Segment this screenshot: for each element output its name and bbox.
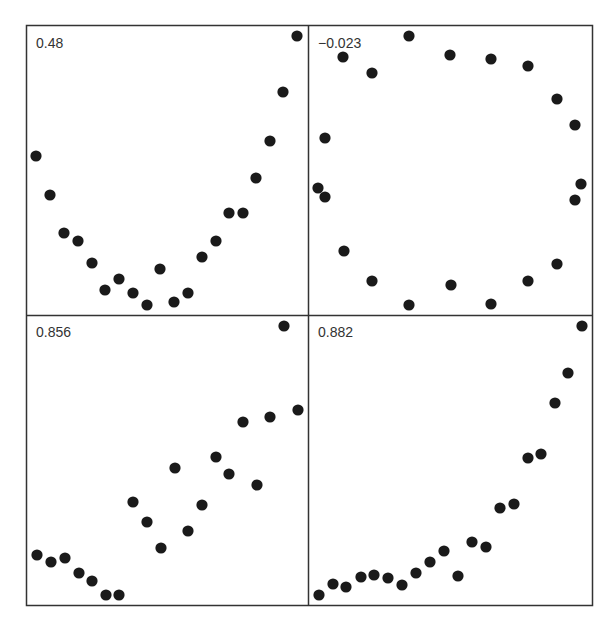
- data-point: [319, 191, 330, 202]
- data-point: [251, 479, 262, 490]
- data-point: [355, 571, 366, 582]
- data-point: [319, 132, 330, 143]
- data-point: [438, 545, 449, 556]
- data-point: [210, 235, 221, 246]
- panel-label-bottom-left: 0.856: [36, 324, 71, 340]
- data-point: [382, 572, 393, 583]
- data-point: [522, 60, 533, 71]
- data-point: [250, 172, 261, 183]
- data-point: [223, 207, 234, 218]
- panel-label-top-left: 0.48: [36, 35, 63, 51]
- data-point: [127, 496, 138, 507]
- data-point: [452, 570, 463, 581]
- data-point: [141, 516, 152, 527]
- data-point: [72, 235, 83, 246]
- data-point: [562, 367, 573, 378]
- data-point: [45, 556, 56, 567]
- panel-label-top-right: −0.023: [318, 35, 361, 51]
- data-point: [551, 258, 562, 269]
- data-point: [569, 194, 580, 205]
- data-point: [127, 287, 138, 298]
- data-point: [535, 448, 546, 459]
- data-point: [277, 86, 288, 97]
- data-point: [223, 468, 234, 479]
- data-point: [410, 567, 421, 578]
- data-point: [182, 525, 193, 536]
- data-point: [340, 581, 351, 592]
- data-point: [551, 93, 562, 104]
- data-point: [169, 462, 180, 473]
- data-point: [312, 182, 323, 193]
- scatter-plot-matrix: 0.48 −0.023 0.856 0.882: [0, 0, 616, 627]
- data-point: [141, 299, 152, 310]
- data-point: [99, 284, 110, 295]
- data-point: [576, 320, 587, 331]
- data-point: [403, 30, 414, 41]
- data-point: [366, 275, 377, 286]
- data-point: [210, 451, 221, 462]
- panel-label-bottom-right: 0.882: [318, 324, 353, 340]
- data-point: [237, 416, 248, 427]
- data-point: [168, 296, 179, 307]
- data-point: [73, 567, 84, 578]
- data-point: [549, 397, 560, 408]
- data-point: [100, 589, 111, 600]
- data-point: [237, 207, 248, 218]
- data-point: [44, 189, 55, 200]
- data-point: [445, 279, 456, 290]
- data-point: [396, 579, 407, 590]
- data-point: [155, 542, 166, 553]
- data-point: [154, 263, 165, 274]
- data-point: [494, 502, 505, 513]
- data-point: [291, 30, 302, 41]
- data-point: [424, 556, 435, 567]
- data-point: [366, 67, 377, 78]
- data-point: [59, 552, 70, 563]
- data-point: [196, 499, 207, 510]
- data-point: [508, 498, 519, 509]
- data-point: [292, 404, 303, 415]
- data-point: [485, 53, 496, 64]
- data-point: [480, 541, 491, 552]
- data-point: [264, 135, 275, 146]
- data-point: [313, 589, 324, 600]
- data-point: [196, 251, 207, 262]
- data-point: [86, 575, 97, 586]
- data-point: [58, 227, 69, 238]
- data-point: [522, 452, 533, 463]
- data-point: [485, 298, 496, 309]
- data-point: [327, 578, 338, 589]
- data-point: [113, 273, 124, 284]
- data-point: [338, 245, 349, 256]
- data-point: [444, 49, 455, 60]
- data-point: [278, 320, 289, 331]
- data-point: [466, 536, 477, 547]
- data-point: [337, 51, 348, 62]
- data-point: [575, 178, 586, 189]
- data-point: [31, 549, 42, 560]
- data-point: [403, 299, 414, 310]
- data-point: [368, 569, 379, 580]
- data-point: [569, 119, 580, 130]
- data-point: [86, 257, 97, 268]
- data-point: [113, 589, 124, 600]
- data-point: [182, 287, 193, 298]
- data-point: [264, 411, 275, 422]
- data-point: [522, 275, 533, 286]
- data-point: [30, 150, 41, 161]
